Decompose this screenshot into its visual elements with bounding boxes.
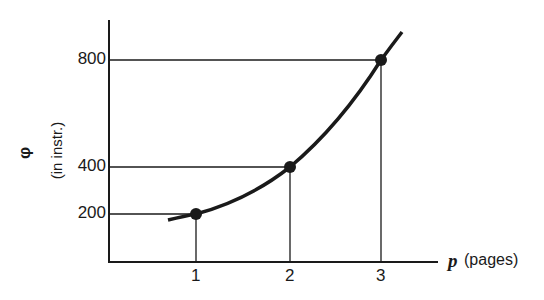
chart-plot — [0, 0, 544, 300]
x-axis-unit: (pages) — [464, 251, 518, 269]
y-axis-unit: (in instr.) — [48, 106, 65, 196]
data-point-2 — [284, 161, 296, 173]
y-tick-200: 200 — [78, 203, 106, 223]
x-tick-2: 2 — [285, 266, 294, 286]
x-axis-symbol: p — [448, 250, 458, 272]
x-tick-3: 3 — [376, 266, 385, 286]
x-tick-1: 1 — [191, 266, 200, 286]
y-tick-800: 800 — [78, 49, 106, 69]
y-axis-symbol: φ — [15, 147, 35, 159]
drop-lines — [109, 60, 381, 262]
data-point-3 — [375, 54, 387, 66]
data-point-1 — [190, 208, 202, 220]
y-tick-400: 400 — [78, 156, 106, 176]
